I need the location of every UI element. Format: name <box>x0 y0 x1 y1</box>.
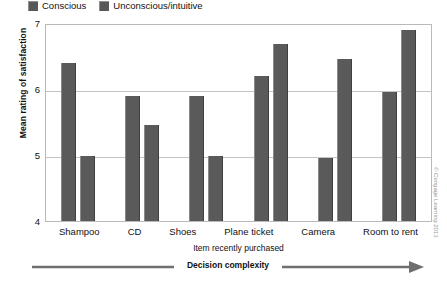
x-axis-category-labels: ShampooCDShoesPlane ticketCameraRoom to … <box>45 226 432 237</box>
decision-complexity-annotation: Decision complexity <box>32 258 424 276</box>
bar-group <box>189 25 223 221</box>
square-swatch-icon <box>99 1 109 11</box>
bar <box>337 59 352 221</box>
bar-group <box>254 25 288 221</box>
legend-entry-unconscious: Unconscious/intuitive <box>99 1 202 11</box>
legend-entry-conscious: Conscious <box>28 1 86 11</box>
bar-group <box>125 25 159 221</box>
y-axis-tick-label: 7 <box>22 18 40 29</box>
bar-groups <box>46 25 431 221</box>
legend-label: Unconscious/intuitive <box>113 1 202 11</box>
y-axis-tick-label: 5 <box>22 150 40 161</box>
square-swatch-icon <box>28 1 38 11</box>
bar <box>401 30 416 221</box>
bar-group <box>382 25 416 221</box>
chart-legend: Conscious Unconscious/intuitive <box>28 1 203 11</box>
bar <box>80 156 95 221</box>
bar <box>382 92 397 221</box>
bar <box>144 125 159 221</box>
bar <box>254 76 269 221</box>
copyright-credit: © Cengage Learning 2013 <box>433 167 439 251</box>
y-axis-tick-label: 4 <box>22 216 40 227</box>
x-axis-category-label: Room to rent <box>363 226 418 237</box>
bar <box>189 96 204 221</box>
decision-complexity-label: Decision complexity <box>174 258 282 272</box>
y-axis-tick-label: 6 <box>22 84 40 95</box>
bar <box>61 63 76 221</box>
x-axis-category-label: Plane ticket <box>224 226 273 237</box>
bar <box>125 96 140 221</box>
bar-group <box>318 25 352 221</box>
plot-area <box>45 24 432 222</box>
bar <box>208 156 223 221</box>
bar-group <box>61 25 95 221</box>
x-axis-category-label: Shampoo <box>59 226 100 237</box>
x-axis-category-label: Camera <box>301 226 335 237</box>
legend-label: Conscious <box>42 1 86 11</box>
x-axis-category-label: CD <box>128 226 142 237</box>
x-axis-title: Item recently purchased <box>45 243 432 253</box>
bar <box>318 158 333 221</box>
bar <box>273 44 288 221</box>
x-axis-category-label: Shoes <box>169 226 196 237</box>
